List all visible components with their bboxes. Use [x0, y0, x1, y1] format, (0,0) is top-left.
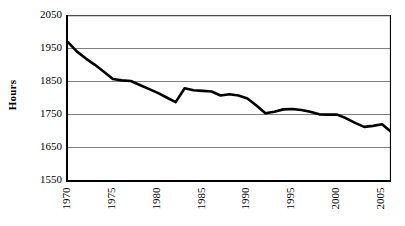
x-tick-label-text: 2005	[375, 188, 386, 210]
x-tick-label-text: 1985	[195, 188, 206, 210]
y-axis-title-label: Hours	[6, 80, 18, 110]
plot-canvas	[68, 15, 391, 180]
x-tick-label: 1990	[225, 188, 265, 206]
y-tick-label: 2050	[20, 9, 62, 20]
x-tick-label: 2000	[315, 188, 355, 206]
x-tick-label: 1980	[136, 188, 176, 206]
data-series-line	[68, 42, 391, 132]
x-tick-label-text: 1980	[150, 188, 161, 210]
plot-area	[66, 15, 391, 182]
y-tick-label: 1750	[20, 108, 62, 119]
y-tick-label: 1850	[20, 75, 62, 86]
y-tick-label: 1950	[20, 42, 62, 53]
x-tick-label-text: 1990	[240, 188, 251, 210]
y-tick-label: 1650	[20, 141, 62, 152]
x-tick-label: 2005	[360, 188, 400, 206]
x-axis-tick-labels: 19701975198019851990199520002005	[66, 182, 389, 226]
x-tick-label-text: 1970	[61, 188, 72, 210]
x-tick-label: 1995	[270, 188, 310, 206]
x-tick-label: 1975	[91, 188, 131, 206]
x-tick-label-text: 2000	[330, 188, 341, 210]
x-tick-label: 1985	[181, 188, 221, 206]
x-tick-label: 1970	[46, 188, 86, 206]
x-tick-label-text: 1995	[285, 188, 296, 210]
gridlines	[68, 15, 391, 180]
y-tick-label: 1550	[20, 174, 62, 185]
x-tick-label-text: 1975	[105, 188, 116, 210]
line-chart-figure: Hours 155016501750185019502050 197019751…	[0, 0, 405, 226]
